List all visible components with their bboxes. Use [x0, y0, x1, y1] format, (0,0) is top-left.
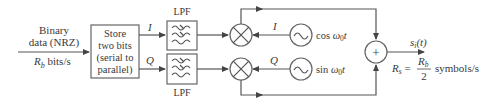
input-section: Binary data (NRZ) Rb bits/s: [18, 24, 89, 70]
svg-text:Rs =: Rs =: [391, 62, 411, 76]
sin-label: sin ω0t: [316, 64, 346, 77]
q-branch-label: Q: [146, 54, 154, 66]
osc-i-label: I: [272, 20, 278, 32]
input-rate: Rb bits/s: [33, 55, 71, 70]
oscillator-sin: [290, 58, 312, 80]
input-label-line2: data (NRZ): [29, 36, 80, 49]
block-text-3: (serial to: [96, 52, 133, 64]
mixer-q: [230, 58, 252, 80]
qpsk-block-diagram: Binary data (NRZ) Rb bits/s Store two bi…: [0, 0, 491, 104]
block-text-4: parallel): [98, 64, 133, 76]
summer: +: [365, 41, 387, 63]
osc-q-label: Q: [270, 54, 278, 66]
lpf-top-label: LPF: [173, 6, 191, 17]
block-text-2: two bits: [98, 40, 132, 51]
cos-label: cos ω0t: [316, 30, 348, 43]
serial-to-parallel-block: Store two bits (serial to parallel): [91, 25, 139, 78]
svg-text:Rb: Rb: [417, 55, 429, 69]
lpf-bottom-filter: [167, 54, 197, 84]
oscillator-cos: [290, 24, 312, 46]
mixer-i: [230, 24, 252, 46]
lpf-bottom-label: LPF: [173, 87, 191, 98]
output-signal-label: si(t): [410, 36, 427, 50]
symbol-rate-unit: symbols/s: [435, 62, 479, 74]
input-label-line1: Binary: [39, 24, 69, 36]
svg-text:2: 2: [421, 70, 427, 82]
lpf-top-filter: [167, 21, 197, 50]
plus-symbol: +: [372, 45, 379, 60]
i-branch-label: I: [147, 21, 153, 33]
block-text-1: Store: [104, 28, 127, 39]
symbol-rate-formula: Rs = Rb 2 symbols/s: [391, 55, 479, 82]
